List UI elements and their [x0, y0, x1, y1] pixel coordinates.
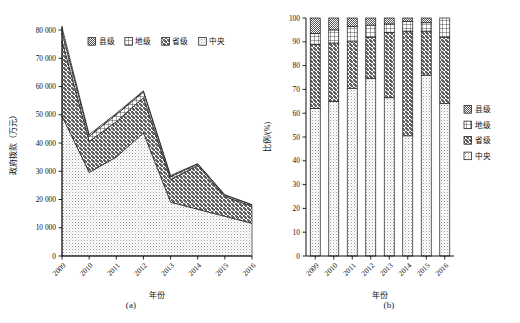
panel-b-ytick: 10 — [293, 228, 301, 237]
panel-b-ytick: 30 — [293, 180, 301, 189]
bar-segment-county — [366, 18, 376, 25]
panel-b-xlabel: 年份 — [372, 290, 388, 300]
bar-segment-prov — [366, 37, 376, 79]
panel-b-stacked-bar: 0102030405060708090100200920102011201220… — [258, 0, 520, 323]
bar-segment-pref — [384, 24, 394, 32]
bar-segment-pref — [310, 33, 320, 44]
panel-b-xtick: 2012 — [359, 261, 376, 278]
panel-b-xtick: 2016 — [433, 261, 450, 278]
panel-a-xtick: 2014 — [186, 261, 203, 278]
legend-swatch-prov — [464, 137, 472, 145]
panel-a-plot: 010 00020 00030 00040 00050 00060 00070 … — [8, 26, 258, 300]
panel-b-ytick: 50 — [293, 133, 301, 142]
panel-a-ytick: 50 000 — [36, 110, 57, 119]
bar-segment-county — [329, 18, 339, 30]
bar-segment-county — [403, 18, 413, 22]
panel-b-ytick: 60 — [293, 109, 301, 118]
bar-segment-central — [347, 88, 357, 256]
bar-segment-prov — [440, 37, 450, 104]
bar-segment-central — [403, 136, 413, 256]
panel-a-ytick: 80 000 — [36, 26, 57, 35]
panel-b-xtick: 2011 — [341, 261, 358, 278]
legend-swatch-county — [464, 106, 472, 114]
panel-b-xtick: 2009 — [304, 261, 321, 278]
panel-b-ytick: 70 — [293, 85, 301, 94]
panel-a-ytick: 40 000 — [36, 139, 57, 148]
panel-b-ytick: 80 — [293, 61, 301, 70]
panel-b-caption: (b) — [258, 300, 520, 310]
panel-b-xtick: 2013 — [378, 261, 395, 278]
panel-a-svg: 010 00020 00030 00040 00050 00060 00070 … — [0, 0, 262, 300]
panel-a-ylabel: 政府拨款（万元） — [8, 111, 18, 175]
legend-label-county: 县级 — [99, 36, 115, 46]
bar-segment-pref — [403, 22, 413, 32]
panel-b-ytick: 40 — [293, 156, 301, 165]
legend-swatch-central — [199, 38, 207, 46]
bar-segment-prov — [347, 42, 357, 88]
legend-swatch-central — [464, 152, 472, 160]
bar-segment-central — [384, 98, 394, 256]
panel-a-xtick: 2015 — [213, 261, 230, 278]
bar-segment-central — [440, 104, 450, 256]
legend-swatch-county — [88, 38, 96, 46]
panel-a-caption: (a) — [0, 300, 262, 310]
bar-segment-central — [366, 79, 376, 256]
bar-segment-pref — [347, 26, 357, 41]
bar-segment-pref — [421, 23, 431, 31]
bar-segment-prov — [421, 31, 431, 75]
bar-segment-county — [310, 18, 320, 33]
panel-b-ylabel: 比例/(%) — [262, 122, 272, 153]
bar-segment-central — [310, 108, 320, 256]
panel-a-legend: 县级地级省级中央 — [88, 36, 225, 46]
panel-a-xtick: 2016 — [241, 261, 258, 278]
bar-segment-pref — [440, 18, 450, 37]
bar-segment-prov — [329, 43, 339, 101]
legend-label-central: 中央 — [209, 36, 225, 46]
panel-b-ytick: 0 — [296, 252, 300, 261]
panel-a-xtick: 2012 — [132, 261, 149, 278]
panel-b-xtick: 2015 — [415, 261, 432, 278]
panel-b-ytick: 100 — [289, 14, 300, 23]
bar-segment-pref — [329, 30, 339, 43]
bar-segment-prov — [384, 32, 394, 97]
bar-segment-county — [384, 18, 394, 24]
legend-swatch-pref — [464, 121, 472, 129]
panel-b-svg: 0102030405060708090100200920102011201220… — [258, 0, 520, 300]
panel-a-xtick: 2009 — [51, 261, 68, 278]
bar-segment-prov — [310, 44, 320, 108]
bar-segment-pref — [366, 25, 376, 37]
bar-segment-county — [347, 18, 357, 26]
panel-a-ytick: 60 000 — [36, 82, 57, 91]
panel-b-ytick: 90 — [293, 37, 301, 46]
panel-b-plot: 0102030405060708090100200920102011201220… — [262, 14, 454, 300]
panel-b-ytick: 20 — [293, 204, 301, 213]
panel-a-xtick: 2013 — [159, 261, 176, 278]
panel-a-xtick: 2011 — [105, 261, 122, 278]
legend-swatch-pref — [125, 38, 133, 46]
panel-a-ytick: 30 000 — [36, 167, 57, 176]
figure-root: 010 00020 00030 00040 00050 00060 00070 … — [0, 0, 520, 323]
panel-b-legend: 县级地级省级中央 — [464, 104, 491, 161]
panel-a-xlabel: 年份 — [149, 290, 165, 300]
panel-a-ytick: 70 000 — [36, 54, 57, 63]
legend-label-pref: 地级 — [475, 120, 491, 130]
panel-a-stacked-area: 010 00020 00030 00040 00050 00060 00070 … — [0, 0, 262, 323]
legend-label-prov: 省级 — [172, 36, 188, 46]
bar-segment-central — [421, 75, 431, 256]
legend-label-prov: 省级 — [475, 135, 491, 145]
panel-a-xtick: 2010 — [78, 261, 95, 278]
panel-a-ytick: 0 — [52, 252, 56, 261]
bar-segment-county — [421, 18, 431, 23]
bar-segment-prov — [403, 31, 413, 136]
panel-b-xtick: 2014 — [396, 261, 413, 278]
panel-a-ytick: 10 000 — [36, 223, 57, 232]
legend-swatch-prov — [162, 38, 170, 46]
legend-label-central: 中央 — [475, 151, 491, 161]
legend-label-county: 县级 — [475, 104, 491, 114]
legend-label-pref: 地级 — [135, 36, 151, 46]
bar-segment-central — [329, 101, 339, 256]
panel-a-ytick: 20 000 — [36, 195, 57, 204]
panel-b-xtick: 2010 — [322, 261, 339, 278]
